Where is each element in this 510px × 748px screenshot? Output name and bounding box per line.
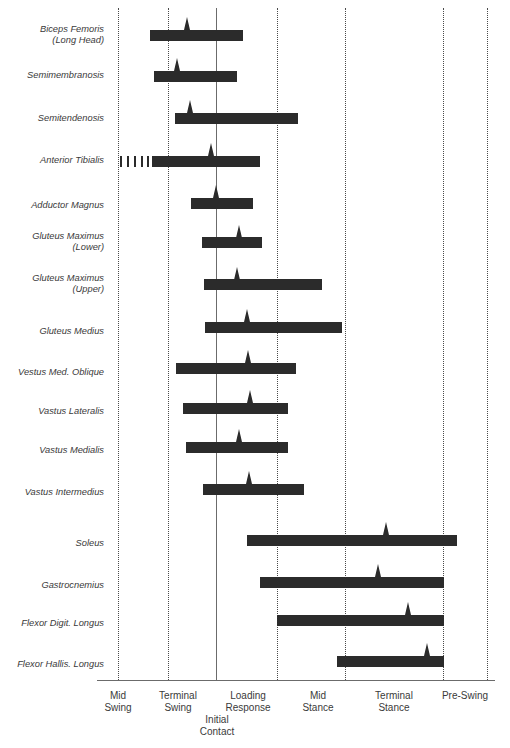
activity-peak-spike: [375, 564, 381, 577]
pre-activity-dash: [141, 156, 143, 167]
activity-peak-spike: [234, 267, 240, 280]
muscle-row-gluteus-maximus-lower: Gluteus Maximus (Lower): [0, 226, 510, 266]
activity-bar: [260, 577, 444, 588]
muscle-label: Gastrocnemius: [0, 580, 104, 591]
muscle-label: Vestus Med. Oblique: [0, 367, 104, 378]
activity-peak-spike: [236, 225, 242, 238]
activity-bar: [191, 198, 253, 209]
pre-activity-dash: [120, 156, 122, 167]
emg-gait-cycle-chart: Biceps Femoris (Long Head) Semimembranos…: [0, 0, 510, 748]
muscle-row-soleus: Soleus: [0, 526, 510, 566]
activity-bar: [175, 113, 298, 124]
activity-peak-spike: [184, 17, 190, 30]
muscle-label: Semitendenosis: [0, 113, 104, 124]
activity-peak-spike: [236, 429, 242, 442]
activity-bar: [204, 279, 322, 290]
activity-peak-spike: [187, 100, 193, 113]
muscle-row-gastrocnemius: Gastrocnemius: [0, 568, 510, 608]
activity-peak-spike: [383, 522, 389, 535]
muscle-label: Semimembranosis: [0, 70, 104, 81]
activity-bar: [154, 71, 237, 82]
activity-peak-spike: [246, 471, 252, 484]
activity-bar: [203, 484, 304, 495]
muscle-label: Vastus Lateralis: [0, 406, 104, 417]
activity-peak-spike: [405, 602, 411, 615]
activity-bar: [277, 615, 444, 626]
muscle-row-vastus-medialis: Vastus Medialis: [0, 433, 510, 473]
activity-bar: [186, 442, 288, 453]
activity-peak-spike: [244, 309, 250, 322]
activity-bar: [183, 403, 288, 414]
muscle-row-semitendenosis: Semitendenosis: [0, 104, 510, 144]
activity-bar: [202, 237, 262, 248]
muscle-row-adductor-magnus: Adductor Magnus: [0, 188, 510, 228]
muscle-label: Soleus: [0, 538, 104, 549]
initial-contact-label: Initial Contact: [172, 714, 262, 738]
muscle-row-vestus-med-oblique: Vestus Med. Oblique: [0, 354, 510, 394]
muscle-label: Vastus Intermedius: [0, 487, 104, 498]
muscle-label: Biceps Femoris (Long Head): [0, 24, 104, 46]
muscle-row-flexor-digit-longus: Flexor Digit. Longus: [0, 606, 510, 646]
muscle-label: Adductor Magnus: [0, 200, 104, 211]
activity-peak-spike: [208, 143, 214, 156]
phase-label-pre-swing: Pre-Swing: [420, 690, 510, 702]
muscle-label: Vastus Medialis: [0, 445, 104, 456]
muscle-label: Flexor Hallis. Longus: [0, 659, 104, 670]
muscle-label: Gluteus Maximus (Upper): [0, 273, 104, 295]
muscle-row-vastus-intermedius: Vastus Intermedius: [0, 475, 510, 515]
activity-bar: [152, 156, 260, 167]
activity-peak-spike: [245, 350, 251, 363]
pre-activity-dash: [134, 156, 136, 167]
pre-activity-dash: [147, 156, 149, 167]
muscle-label: Gluteus Medius: [0, 326, 104, 337]
activity-bar: [176, 363, 296, 374]
activity-bar: [247, 535, 457, 546]
muscle-row-vastus-lateralis: Vastus Lateralis: [0, 394, 510, 434]
activity-peak-spike: [174, 58, 180, 71]
pre-activity-dash: [127, 156, 129, 167]
muscle-label: Anterior Tibialis: [0, 155, 104, 166]
muscle-label: Gluteus Maximus (Lower): [0, 231, 104, 253]
activity-bar: [337, 656, 444, 667]
muscle-row-gluteus-medius: Gluteus Medius: [0, 312, 510, 352]
muscle-row-flexor-hallis-longus: Flexor Hallis. Longus: [0, 647, 510, 687]
activity-peak-spike: [213, 185, 219, 198]
activity-peak-spike: [247, 390, 253, 403]
activity-bar: [205, 322, 342, 333]
muscle-label: Flexor Digit. Longus: [0, 618, 104, 629]
muscle-row-biceps-femoris: Biceps Femoris (Long Head): [0, 22, 510, 62]
muscle-row-anterior-tibialis: Anterior Tibialis: [0, 144, 510, 184]
muscle-row-gluteus-maximus-upper: Gluteus Maximus (Upper): [0, 268, 510, 308]
activity-peak-spike: [424, 643, 430, 656]
muscle-row-semimembranosis: Semimembranosis: [0, 62, 510, 102]
activity-bar: [150, 30, 243, 41]
